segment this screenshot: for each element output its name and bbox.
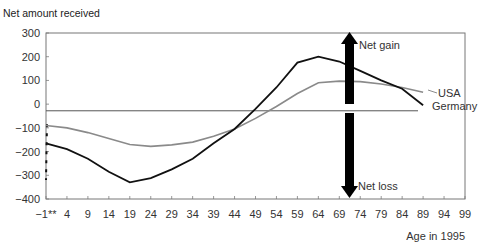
- y-tick-label: −200: [15, 146, 40, 158]
- x-tick-label: 14: [103, 208, 115, 220]
- chart-title: Net amount received: [3, 7, 100, 19]
- y-tick-label: 200: [22, 51, 40, 63]
- usa-series-label: USA: [438, 87, 461, 99]
- x-tick-label: 54: [270, 208, 282, 220]
- y-tick-label: 100: [22, 74, 40, 86]
- x-tick-label: 39: [207, 208, 219, 220]
- germany-series-label: Germany: [432, 100, 478, 112]
- net-loss-arrow-icon: [341, 113, 358, 198]
- plot-frame: [46, 33, 465, 199]
- x-tick-label: 49: [249, 208, 261, 220]
- y-tick-label: −400: [15, 193, 40, 205]
- usa-leader-line: [428, 90, 437, 93]
- x-tick-label: 94: [438, 208, 450, 220]
- x-tick-label: 4: [64, 208, 70, 220]
- x-axis: −1**491419242934394449545964697479848994…: [35, 196, 471, 220]
- y-axis: 3002001000−100−200−300−400: [15, 27, 49, 205]
- x-tick-label: 44: [228, 208, 240, 220]
- series-line-germany: [46, 57, 423, 183]
- x-tick-label: 84: [396, 208, 408, 220]
- x-tick-label: 69: [333, 208, 345, 220]
- x-tick-label: 64: [312, 208, 324, 220]
- y-tick-label: −300: [15, 169, 40, 181]
- x-tick-label: 24: [145, 208, 157, 220]
- x-tick-label: 89: [417, 208, 429, 220]
- x-tick-label: 29: [166, 208, 178, 220]
- x-tick-label: 74: [354, 208, 366, 220]
- x-tick-label: 34: [187, 208, 199, 220]
- x-tick-label: 99: [459, 208, 471, 220]
- x-tick-label: 59: [291, 208, 303, 220]
- x-tick-label: 19: [124, 208, 136, 220]
- y-tick-label: 300: [22, 27, 40, 39]
- x-tick-label: 9: [85, 208, 91, 220]
- line-chart: Net amount received 3002001000−100−200−3…: [0, 0, 484, 246]
- y-tick-label: 0: [34, 98, 40, 110]
- x-axis-title: Age in 1995: [406, 230, 465, 242]
- net-loss-label: Net loss: [358, 180, 398, 192]
- series-line-usa: [46, 81, 423, 146]
- x-tick-label: −1**: [35, 208, 57, 220]
- y-tick-label: −100: [15, 122, 40, 134]
- x-tick-label: 79: [375, 208, 387, 220]
- net-gain-label: Net gain: [359, 39, 400, 51]
